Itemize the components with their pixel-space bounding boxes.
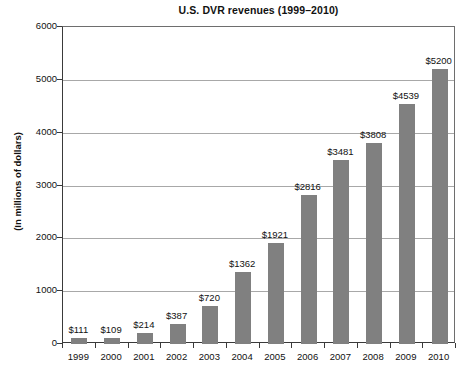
plot-area xyxy=(62,26,455,343)
x-axis-tick xyxy=(259,343,260,348)
y-axis-tick-label: 4000 xyxy=(17,126,57,137)
x-axis-tick xyxy=(357,343,358,348)
chart-title: U.S. DVR revenues (1999–2010) xyxy=(62,4,455,16)
bar-value-label: $3481 xyxy=(310,146,370,157)
bar xyxy=(71,338,87,344)
bar xyxy=(366,143,382,344)
y-axis-tick-label: 1000 xyxy=(17,284,57,295)
y-axis-tick-label: 5000 xyxy=(17,73,57,84)
bar-value-label: $4539 xyxy=(376,90,436,101)
bar-value-label: $1921 xyxy=(245,229,305,240)
y-axis-tick-label: 3000 xyxy=(17,179,57,190)
x-axis-tick xyxy=(193,343,194,348)
x-axis-tick xyxy=(95,343,96,348)
y-axis-tick-label: 6000 xyxy=(17,20,57,31)
bar-value-label: $1362 xyxy=(212,258,272,269)
chart-figure: U.S. DVR revenues (1999–2010) (In millio… xyxy=(0,0,471,373)
x-axis-tick xyxy=(455,343,456,348)
bar xyxy=(432,69,448,344)
x-axis-tick-label: 2010 xyxy=(419,351,459,362)
gridline xyxy=(63,186,454,187)
bar-value-label: $2816 xyxy=(278,181,338,192)
gridline xyxy=(63,291,454,292)
x-axis-tick xyxy=(128,343,129,348)
bar-value-label: $3808 xyxy=(343,129,403,140)
x-axis-tick xyxy=(226,343,227,348)
y-axis-tick-label: 2000 xyxy=(17,231,57,242)
bar xyxy=(235,272,251,344)
y-axis-tick-label: 0 xyxy=(17,337,57,348)
bar xyxy=(301,195,317,344)
x-axis-tick xyxy=(324,343,325,348)
bar xyxy=(104,338,120,344)
x-axis-tick xyxy=(422,343,423,348)
x-axis-tick xyxy=(390,343,391,348)
bar-value-label: $387 xyxy=(147,310,207,321)
bar-value-label: $5200 xyxy=(409,55,469,66)
gridline xyxy=(63,80,454,81)
x-axis-tick xyxy=(291,343,292,348)
bar xyxy=(399,104,415,344)
bar-value-label: $720 xyxy=(179,292,239,303)
x-axis-tick xyxy=(62,343,63,348)
x-axis-tick xyxy=(160,343,161,348)
